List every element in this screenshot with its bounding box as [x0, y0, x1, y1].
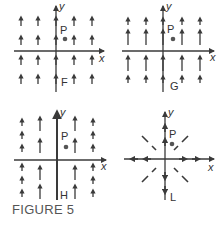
x-axis-label: x	[100, 160, 107, 172]
x-axis-label: x	[209, 51, 216, 63]
panel-g	[122, 6, 214, 92]
y-axis-label: y	[58, 0, 66, 12]
point-p-dot	[171, 37, 176, 42]
point-p-dot	[64, 145, 69, 150]
point-p-label: P	[61, 130, 68, 142]
y-axis-label: y	[167, 106, 175, 118]
point-p-label: P	[60, 24, 67, 36]
point-p-dot	[63, 37, 68, 42]
panel-label-l: L	[170, 191, 176, 203]
panel-l	[124, 112, 214, 200]
figure-canvas: P y x F P	[0, 0, 224, 230]
x-axis-label: x	[98, 52, 105, 64]
panel-label-f: F	[61, 76, 68, 88]
point-p-label: P	[169, 128, 176, 140]
panel-h	[14, 111, 106, 200]
y-axis-label: y	[165, 0, 173, 12]
panel-label-g: G	[170, 80, 179, 92]
y-axis-label: y	[59, 106, 67, 118]
x-axis-label: x	[207, 161, 214, 173]
panel-label-h: H	[60, 189, 68, 201]
panel-f	[14, 6, 104, 92]
figure-caption: FIGURE 5	[12, 202, 74, 217]
point-p-dot	[170, 142, 175, 147]
point-p-label: P	[167, 23, 174, 35]
